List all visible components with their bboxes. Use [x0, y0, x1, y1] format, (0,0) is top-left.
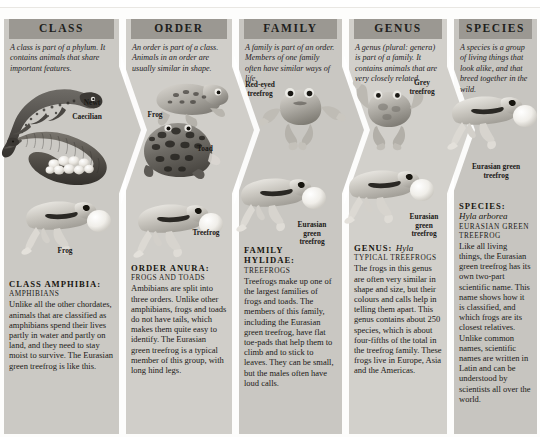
- header-bar-class: CLASS: [9, 19, 114, 39]
- body-text-species: Like all living things, the Eurasian gre…: [459, 241, 532, 404]
- header-label-genus: GENUS: [374, 23, 422, 35]
- body-text-genus: The frogs in this genus are often very s…: [354, 263, 442, 375]
- rank-heading-species: SPECIES:: [459, 201, 532, 211]
- rank-heading-class: CLASS AMPHIBIA:: [9, 279, 114, 289]
- column-order: ORDER An order is part of a class. Anima…: [122, 7, 235, 437]
- body-text-class: Unlike all the other chordates, animals …: [9, 299, 114, 370]
- classification-diagram: CLASS A class is part of a phylum. It co…: [0, 0, 540, 437]
- intro-text-class: A class is part of a phylum. It contains…: [10, 43, 113, 74]
- body-text-order: Ambibians are split into three orders. U…: [131, 283, 227, 375]
- figure-label-treefrog-genus: Eurasian green treefrog: [403, 213, 445, 239]
- rank-heading-genus-label: GENUS:: [354, 243, 392, 253]
- taxonomy-columns: CLASS A class is part of a phylum. It co…: [0, 7, 540, 437]
- body-block-family: FAMILY HYLIDAE: TREEFROGS Treefrogs make…: [244, 245, 337, 388]
- illustration-stage-genus: Grey treefrog: [345, 87, 450, 267]
- common-name-genus: TYPICAL TREEFROGS: [354, 253, 442, 262]
- scientific-name-genus: Hyla: [396, 243, 414, 253]
- rank-heading-order: ORDER ANURA:: [131, 263, 227, 273]
- header-bar-family: FAMILY: [244, 19, 337, 39]
- intro-text-order: An order is part of a class. Animals in …: [132, 43, 226, 74]
- figure-label-treefrog-order: Treefrog: [184, 229, 228, 238]
- body-block-genus: GENUS: Hyla TYPICAL TREEFROGS The frogs …: [354, 243, 442, 376]
- body-block-order: ORDER ANURA: FROGS AND TOADS Ambibians a…: [131, 263, 227, 375]
- figure-label-treefrog-family: Eurasian green treefrog: [291, 221, 333, 247]
- figure-label-frog-order: Frog: [138, 111, 172, 120]
- scientific-name-species: Hyla arborea: [459, 211, 532, 221]
- header-bar-species: SPECIES: [459, 19, 532, 39]
- figure-label-caecilian: Caecilian: [62, 113, 112, 122]
- rank-heading-genus: GENUS: Hyla: [354, 243, 442, 253]
- common-name-order: FROGS AND TOADS: [131, 273, 227, 282]
- intro-text-family: A family is part of an order. Members of…: [245, 43, 336, 85]
- body-block-species: SPECIES: Hyla arborea EURASIAN GREEN TRE…: [459, 201, 532, 404]
- illustration-stage-order: Frog: [122, 87, 235, 267]
- figure-label-frog-class: Frog: [48, 247, 82, 256]
- intro-text-genus: A genus (plural: genera) is part of a fa…: [355, 43, 441, 85]
- illustration-stage-class: Newt: [0, 87, 122, 267]
- intro-text-species: A species is a group of living things th…: [460, 43, 531, 95]
- header-bar-genus: GENUS: [354, 19, 442, 39]
- common-name-class: AMPHIBIANS: [9, 289, 114, 298]
- body-block-class: CLASS AMPHIBIA: AMPHIBIANS Unlike all th…: [9, 279, 114, 371]
- header-label-class: CLASS: [39, 23, 84, 35]
- common-name-species: EURASIAN GREEN TREEFROG: [459, 222, 532, 240]
- body-text-family: Treefrogs make up one of the largest fam…: [244, 276, 337, 388]
- header-label-order: ORDER: [154, 23, 204, 35]
- column-class: CLASS A class is part of a phylum. It co…: [0, 7, 122, 437]
- column-family: FAMILY A family is part of an order. Mem…: [235, 7, 345, 437]
- column-species: SPECIES A species is a group of living t…: [450, 7, 540, 437]
- column-genus: GENUS A genus (plural: genera) is part o…: [345, 7, 450, 437]
- header-label-family: FAMILY: [263, 23, 317, 35]
- header-label-species: SPECIES: [466, 23, 525, 35]
- figure-label-toad: Toad: [190, 145, 220, 154]
- illustration-stage-family: Red-eyed treefrog: [235, 87, 345, 267]
- rank-heading-family: FAMILY HYLIDAE:: [244, 245, 337, 266]
- header-bar-order: ORDER: [131, 19, 227, 39]
- figure-label-newt: Newt: [72, 99, 112, 108]
- figure-label-treefrog-species: Eurasian green treefrog: [460, 163, 532, 180]
- common-name-family: TREEFROGS: [244, 266, 337, 275]
- treefrog-illustration-order: [130, 183, 234, 263]
